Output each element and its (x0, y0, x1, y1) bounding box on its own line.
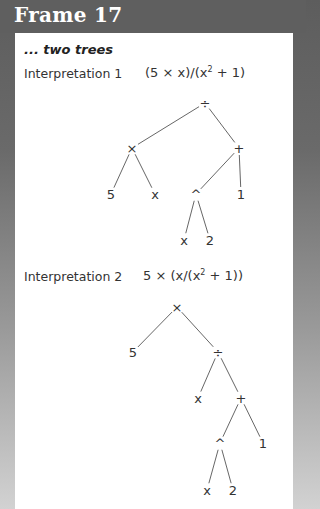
tree-node: 2 (229, 483, 237, 498)
tree-node: x (203, 483, 211, 498)
tree-node: ÷ (213, 345, 224, 360)
tree-node: + (236, 391, 247, 406)
tree-edge (201, 358, 215, 391)
tree-node: 1 (259, 436, 267, 451)
tree-node: ^ (215, 436, 226, 451)
tree-node: 5 (129, 345, 137, 360)
tree-edge (138, 312, 172, 347)
tree-node: × (172, 300, 183, 315)
tree-edge (222, 450, 231, 484)
expression-tree-2: ×5÷x+^1x2 (0, 0, 306, 509)
tree-edge (209, 450, 218, 484)
tree-node: x (194, 391, 202, 406)
tree-edge (221, 358, 238, 391)
tree-edge (182, 312, 214, 347)
tree-edge (223, 404, 238, 436)
tree-edge (244, 404, 260, 436)
